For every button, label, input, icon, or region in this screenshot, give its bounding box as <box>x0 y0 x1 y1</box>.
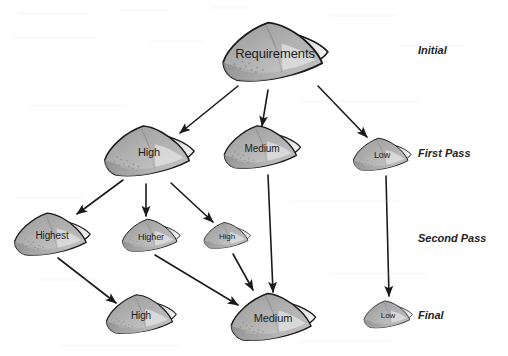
node-medium-final[interactable]: Medium <box>227 289 319 347</box>
stage-final: Final <box>418 309 444 321</box>
node-requirements[interactable]: Requirements <box>218 17 333 89</box>
edge-arrow <box>318 86 367 137</box>
node-low-first[interactable]: Low <box>351 135 413 175</box>
stage-second-pass: Second Pass <box>418 232 486 244</box>
cone-shape-icon <box>11 209 93 261</box>
node-high-second[interactable]: High <box>202 219 252 253</box>
node-low-final[interactable]: Low <box>362 298 414 332</box>
node-highest[interactable]: Highest <box>11 209 93 261</box>
cone-shape-icon <box>218 17 333 89</box>
cone-shape-icon <box>101 121 197 183</box>
cone-shape-icon <box>221 122 303 175</box>
cone-shape-icon <box>351 135 413 175</box>
stage-initial: Initial <box>418 44 447 56</box>
cone-shape-icon <box>202 219 252 253</box>
cone-shape-icon <box>120 216 182 257</box>
cone-shape-icon <box>103 291 179 339</box>
edge-arrow <box>268 175 273 292</box>
requirements-prioritization-diagram: RequirementsHighMediumLowHighestHigherHi… <box>0 0 508 356</box>
node-high-first[interactable]: High <box>101 121 197 183</box>
cone-shape-icon <box>227 289 319 347</box>
node-higher[interactable]: Higher <box>120 216 182 257</box>
node-high-final[interactable]: High <box>103 291 179 339</box>
edge-arrow <box>233 254 253 290</box>
node-medium-first[interactable]: Medium <box>221 122 303 175</box>
stage-first-pass: First Pass <box>418 147 471 159</box>
edge-arrow <box>386 176 389 296</box>
cone-shape-icon <box>362 298 414 332</box>
